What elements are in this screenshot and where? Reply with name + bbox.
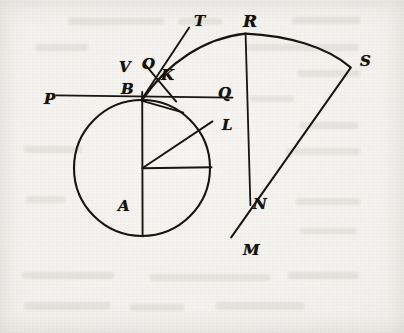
label-point-M: M: [243, 243, 260, 258]
label-point-L: L: [222, 118, 233, 133]
label-point-K: K: [161, 68, 174, 83]
diagram-ink-layer: [0, 0, 404, 333]
label-point-B: B: [121, 82, 134, 97]
line-radius-AN: [143, 167, 212, 168]
label-point-O: O: [142, 57, 155, 72]
arc-outer-R-to-S: [245, 34, 350, 68]
label-point-P: P: [44, 92, 55, 107]
line-radius-AL: [143, 121, 213, 168]
label-point-R: R: [243, 13, 257, 30]
label-point-N: N: [253, 197, 267, 212]
label-point-A: A: [118, 199, 130, 214]
line-RN-vertical: [246, 34, 251, 205]
geometric-diagram-figure: P V O B K T R S Q L A N M: [0, 0, 404, 333]
label-point-S: S: [360, 54, 371, 69]
label-point-V: V: [119, 60, 131, 75]
label-point-T: T: [194, 14, 205, 29]
label-point-Q: Q: [218, 86, 231, 101]
diagram-vector-drawing: [0, 0, 404, 333]
